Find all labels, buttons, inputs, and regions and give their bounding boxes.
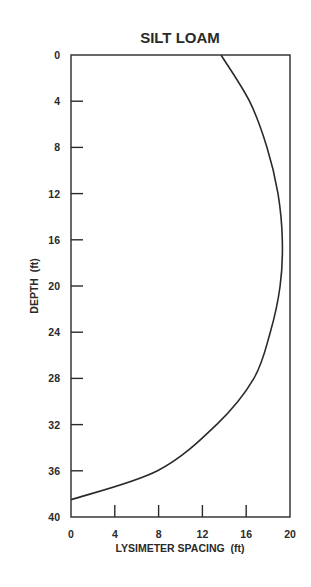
y-axis-label: DEPTH (ft) — [28, 258, 40, 313]
x-tick-label: 20 — [284, 528, 296, 540]
y-tick-label: 32 — [48, 419, 60, 431]
y-tick-label: 36 — [48, 465, 60, 477]
y-tick-label: 28 — [48, 372, 60, 384]
chart-title: SILT LOAM — [140, 29, 220, 46]
x-tick-label: 16 — [240, 528, 252, 540]
x-tick-label: 0 — [68, 528, 74, 540]
series-line-silt-loam — [71, 55, 282, 500]
x-axis-ticks: 048121620 — [68, 505, 296, 540]
y-tick-label: 20 — [48, 280, 60, 292]
y-tick-label: 24 — [48, 326, 60, 338]
y-tick-label: 4 — [54, 95, 60, 107]
x-axis-label: LYSIMETER SPACING (ft) — [116, 542, 245, 554]
chart: SILT LOAM 0481216202428323640 048121620 … — [0, 0, 311, 587]
x-tick-label: 8 — [156, 528, 162, 540]
y-tick-label: 12 — [48, 188, 60, 200]
y-tick-label: 40 — [48, 511, 60, 523]
plot-frame — [71, 55, 290, 517]
y-tick-label: 0 — [54, 49, 60, 61]
y-axis-ticks: 0481216202428323640 — [48, 49, 83, 523]
x-tick-label: 4 — [112, 528, 118, 540]
y-tick-label: 16 — [48, 234, 60, 246]
x-tick-label: 12 — [197, 528, 209, 540]
y-tick-label: 8 — [54, 141, 60, 153]
